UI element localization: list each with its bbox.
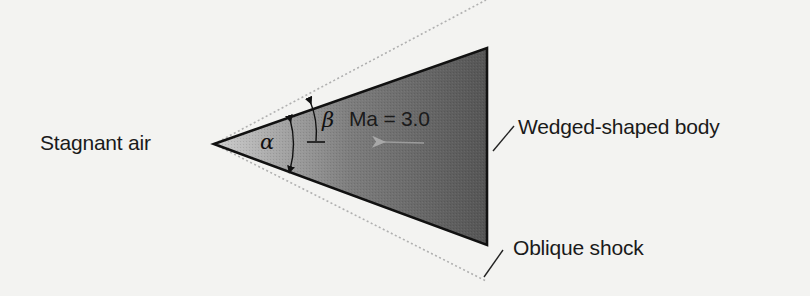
wedge-body-texture — [214, 48, 487, 245]
oblique-shock-label: Oblique shock — [513, 236, 643, 260]
body-leader-line — [493, 126, 514, 151]
flow-direction-arrow — [384, 142, 424, 143]
beta-symbol: β — [322, 108, 334, 132]
shock-leader-line — [484, 250, 503, 277]
stagnant-air-label: Stagnant air — [40, 131, 151, 155]
alpha-symbol: α — [260, 130, 274, 154]
oblique-shock-diagram: Stagnant air α β Ma = 3.0 Wedged-shaped … — [0, 0, 810, 296]
wedge-body-label: Wedged-shaped body — [518, 115, 720, 139]
mach-number-label: Ma = 3.0 — [349, 107, 430, 131]
